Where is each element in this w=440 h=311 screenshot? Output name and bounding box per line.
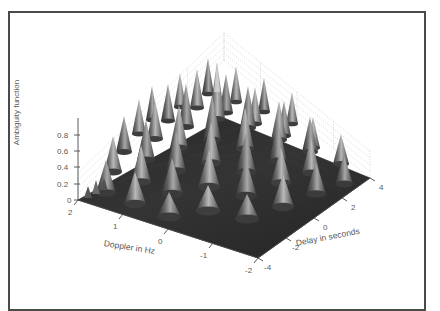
y-tick-1: 2 xyxy=(351,203,355,212)
y-tick-4: -4 xyxy=(264,263,271,272)
x-tick-0: 2 xyxy=(68,208,72,217)
z-tick-0: 0.8 xyxy=(57,131,68,140)
x-tick-4: -2 xyxy=(245,266,252,275)
x-tick-2: 0 xyxy=(158,237,162,246)
x-tick-1: 1 xyxy=(113,222,117,231)
z-tick-2: 0.4 xyxy=(57,163,68,172)
z-axis-ticks xyxy=(74,135,80,200)
z-tick-1: 0.6 xyxy=(57,147,68,156)
x-tick-3: -1 xyxy=(200,251,207,260)
y-tick-3: -2 xyxy=(292,243,299,252)
z-tick-3: 0.2 xyxy=(57,180,68,189)
y-tick-2: 0 xyxy=(323,223,327,232)
y-tick-0: 4 xyxy=(379,183,383,192)
z-axis-title: Ambiguity function xyxy=(12,70,21,156)
z-tick-4: 0 xyxy=(67,196,71,205)
